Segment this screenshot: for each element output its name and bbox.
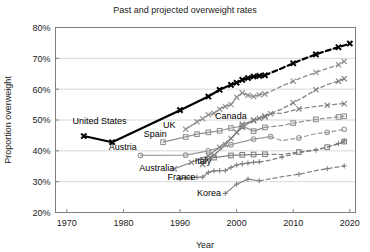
x-tick-label: 2000 [227, 218, 247, 228]
series-label-canada: Canada [215, 111, 247, 121]
chart-container: 20%30%40%50%60%70%80%1970198019902000201… [0, 0, 370, 252]
y-tick-label: 70% [32, 54, 50, 64]
x-tick-label: 2020 [340, 218, 360, 228]
series-label-italy: Italy [195, 156, 212, 166]
y-tick-label: 80% [32, 23, 50, 33]
y-tick-label: 50% [32, 115, 50, 125]
y-tick-label: 60% [32, 85, 50, 95]
y-tick-label: 40% [32, 146, 50, 156]
series-label-france: France [168, 172, 196, 182]
y-tick-label: 20% [32, 208, 50, 218]
x-axis-title: Year [196, 240, 214, 250]
x-tick-label: 1970 [57, 218, 77, 228]
series-label-spain: Spain [144, 129, 167, 139]
overweight-rates-line-chart: 20%30%40%50%60%70%80%1970198019902000201… [0, 0, 370, 252]
y-tick-label: 30% [32, 177, 50, 187]
series-label-united-states: United States [72, 116, 127, 126]
series-label-korea: Korea [197, 188, 221, 198]
x-tick-label: 1990 [170, 218, 190, 228]
series-label-austria: Austria [109, 142, 137, 152]
chart-title: Past and projected overweight rates [113, 5, 257, 15]
y-axis-title: Proportion overweight [3, 76, 13, 164]
x-tick-label: 1980 [113, 218, 133, 228]
x-tick-label: 2010 [283, 218, 303, 228]
